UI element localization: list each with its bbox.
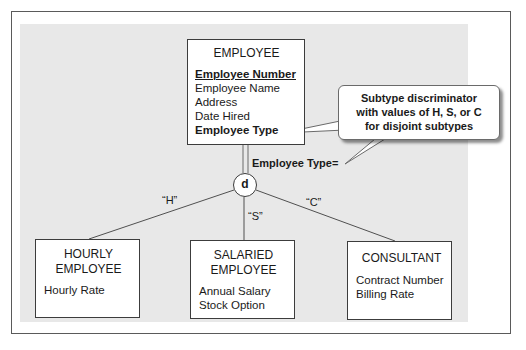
billing-rate-attribute: Billing Rate (356, 287, 447, 301)
disjoint-circle-icon: d (233, 173, 257, 197)
contract-number-attribute: Contract Number (356, 273, 447, 287)
hourly-rate-attribute: Hourly Rate (44, 283, 133, 297)
branch-value-h: “H” (162, 194, 177, 206)
hourly-title-line-2: EMPLOYEE (44, 262, 133, 277)
employee-number-attribute: Employee Number (195, 67, 298, 81)
employee-type-attribute: Employee Type (195, 123, 298, 137)
stock-option-attribute: Stock Option (199, 298, 288, 312)
salaried-title-line-2: EMPLOYEE (199, 263, 288, 278)
branch-value-s: “S” (248, 210, 263, 222)
salaried-employee-entity: SALARIED EMPLOYEE Annual Salary Stock Op… (190, 240, 295, 319)
discriminator-callout: Subtype discriminator with values of H, … (338, 85, 500, 140)
callout-line-1: Subtype discriminator (339, 91, 499, 105)
annual-salary-attribute: Annual Salary (199, 284, 288, 298)
date-hired-attribute: Date Hired (195, 109, 298, 123)
hourly-employee-entity: HOURLY EMPLOYEE Hourly Rate (35, 239, 140, 318)
salaried-title-line-1: SALARIED (199, 248, 288, 263)
employee-name-attribute: Employee Name (195, 81, 298, 95)
employee-entity: EMPLOYEE Employee Number Employee Name A… (187, 39, 305, 145)
address-attribute: Address (195, 95, 298, 109)
employee-entity-title: EMPLOYEE (195, 46, 298, 61)
hourly-title-line-1: HOURLY (44, 247, 133, 262)
callout-line-2: with values of H, S, or C (339, 105, 499, 119)
discriminator-label: Employee Type= (252, 157, 338, 169)
consultant-title: CONSULTANT (356, 251, 447, 266)
branch-value-c: “C” (306, 196, 321, 208)
consultant-entity: CONSULTANT Contract Number Billing Rate (347, 241, 452, 320)
callout-line-3: for disjoint subtypes (339, 119, 499, 133)
